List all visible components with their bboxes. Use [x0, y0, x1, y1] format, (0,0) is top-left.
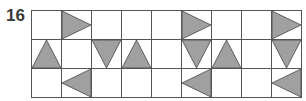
- triangle-pattern-grid: [31, 10, 302, 98]
- puzzle-number: 16: [6, 6, 25, 26]
- triangle-down-icon: [272, 40, 301, 68]
- grid-cell: [152, 69, 182, 98]
- triangle-down-icon: [92, 40, 121, 68]
- triangle-right-icon: [182, 11, 211, 39]
- triangle-up-icon: [122, 40, 151, 68]
- grid-cell: [182, 11, 212, 40]
- grid-cell: [92, 11, 122, 40]
- grid-cell: [32, 11, 62, 40]
- grid-cell: [122, 69, 152, 98]
- grid-cell: [92, 69, 122, 98]
- grid-cell: [182, 40, 212, 69]
- triangle-right-icon: [272, 11, 301, 39]
- grid-cell: [122, 11, 152, 40]
- grid-cell: [62, 40, 92, 69]
- grid-cell: [272, 69, 302, 98]
- grid-cell: [212, 11, 242, 40]
- grid-cell: [242, 40, 272, 69]
- grid-cell: [272, 11, 302, 40]
- grid-cell: [272, 40, 302, 69]
- triangle-left-icon: [272, 69, 301, 97]
- grid-cell: [62, 69, 92, 98]
- grid-cell: [212, 40, 242, 69]
- grid-cell: [62, 11, 92, 40]
- grid-cell: [32, 40, 62, 69]
- grid-cell: [242, 11, 272, 40]
- triangle-right-icon: [62, 11, 91, 39]
- grid-cell: [92, 40, 122, 69]
- triangle-up-icon: [212, 40, 241, 68]
- grid-cell: [152, 40, 182, 69]
- triangle-down-icon: [182, 40, 211, 68]
- grid-cell: [152, 11, 182, 40]
- grid-cell: [32, 69, 62, 98]
- triangle-left-icon: [182, 69, 211, 97]
- grid-cell: [242, 69, 272, 98]
- triangle-left-icon: [62, 69, 91, 97]
- grid-cell: [212, 69, 242, 98]
- grid-cell: [122, 40, 152, 69]
- triangle-up-icon: [32, 40, 61, 68]
- grid-cell: [182, 69, 212, 98]
